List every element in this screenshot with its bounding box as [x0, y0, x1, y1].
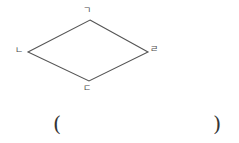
answer-blank: ( ) [0, 106, 239, 143]
quadrilateral-figure: ㄱ ㄹ ㄷ ㄴ [0, 0, 239, 106]
vertex-label-top: ㄱ [83, 6, 91, 15]
geometry-figure-page: ㄱ ㄹ ㄷ ㄴ ( ) [0, 0, 239, 143]
close-paren: ) [213, 114, 221, 135]
quadrilateral-outline [28, 20, 148, 81]
vertex-label-bottom: ㄷ [83, 84, 91, 93]
open-paren: ( [53, 114, 61, 135]
quadrilateral-svg [0, 0, 239, 106]
vertex-label-left: ㄴ [15, 46, 23, 55]
vertex-label-right: ㄹ [150, 45, 158, 54]
